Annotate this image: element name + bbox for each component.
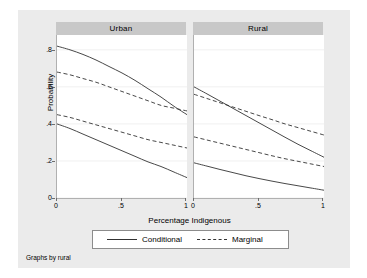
- y-tick-mark: [52, 198, 55, 199]
- x-tick-mark: [185, 198, 186, 201]
- y-tick-mark: [52, 161, 55, 162]
- series-line-conditional-upper: [57, 46, 187, 115]
- x-tick-label: 0: [186, 202, 200, 209]
- y-tick-label: .2: [38, 157, 52, 164]
- x-tick-label: 1: [316, 202, 330, 209]
- x-tick-mark: [258, 198, 259, 201]
- legend-swatch-dashed: [197, 235, 227, 244]
- y-tick-label: 0: [38, 194, 52, 201]
- y-tick-mark: [52, 124, 55, 125]
- panel-header-rural: Rural: [193, 22, 323, 35]
- plot-area-rural: [193, 35, 324, 198]
- chart-legend: Conditional Marginal: [92, 230, 289, 249]
- x-tick-label: .5: [114, 202, 128, 209]
- x-tick-label: 0: [49, 202, 63, 209]
- x-tick-mark: [121, 198, 122, 201]
- chart-figure: 0.2.4.6.8 Probability Urban Rural 0.51 0…: [18, 10, 350, 268]
- x-tick-label: .5: [251, 202, 265, 209]
- x-axis-title: Percentage Indigenous: [56, 216, 323, 225]
- x-axis-rural: 0.51: [193, 198, 323, 216]
- series-line-marginal-lower: [194, 137, 324, 167]
- series-line-marginal-upper: [194, 94, 324, 135]
- legend-item-conditional: Conditional: [107, 231, 182, 248]
- x-tick-mark: [322, 198, 323, 201]
- facet-note: Graphs by rural: [26, 254, 71, 261]
- x-tick-mark: [193, 198, 194, 201]
- plot-area-urban: [56, 35, 187, 198]
- panel-header-urban: Urban: [56, 22, 186, 35]
- y-tick-mark: [52, 50, 55, 51]
- legend-item-marginal: Marginal: [197, 231, 263, 248]
- legend-label-marginal: Marginal: [232, 235, 263, 244]
- series-line-conditional-upper: [194, 87, 324, 157]
- y-axis-title: Probability: [46, 63, 55, 123]
- series-line-marginal-upper: [57, 72, 187, 111]
- x-tick-mark: [56, 198, 57, 201]
- y-tick-label: .8: [38, 46, 52, 53]
- legend-swatch-solid: [107, 235, 137, 244]
- x-axis-urban: 0.51: [56, 198, 186, 216]
- legend-label-conditional: Conditional: [142, 235, 182, 244]
- series-line-conditional-lower: [194, 163, 324, 190]
